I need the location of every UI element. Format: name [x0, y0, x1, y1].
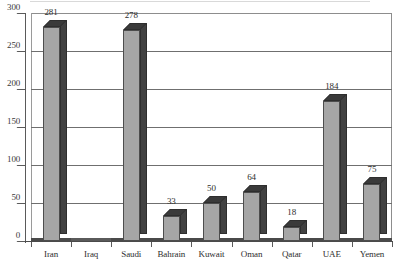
x-tick-iran — [31, 242, 32, 247]
x-axis-line — [25, 241, 393, 242]
value-label-oman: 64 — [232, 173, 272, 182]
bar-front-face — [243, 192, 260, 241]
x-tick-qatar — [272, 242, 273, 247]
x-tick-iraq — [71, 242, 72, 247]
bar-yemen[interactable] — [363, 177, 387, 241]
value-label-uae: 184 — [312, 82, 352, 91]
gridline-250 — [31, 51, 392, 52]
bar-front-face — [323, 101, 340, 241]
bar-side-face — [140, 23, 147, 234]
value-label-qatar: 18 — [272, 208, 312, 217]
value-label-yemen: 75 — [352, 165, 392, 174]
x-tick-saudi — [111, 242, 112, 247]
x-tick-bahrain — [151, 242, 152, 247]
y-axis-label-50: 50 — [0, 193, 20, 202]
bar-oman[interactable] — [243, 185, 267, 241]
bar-front-face — [283, 227, 300, 241]
bar-front-face — [163, 216, 180, 241]
y-axis-label-100: 100 — [0, 155, 20, 164]
x-tick-oman — [232, 242, 233, 247]
x-tick-end — [392, 242, 393, 247]
bar-side-face — [340, 94, 347, 234]
bar-uae[interactable] — [323, 94, 347, 241]
y-axis-label-300: 300 — [0, 3, 20, 12]
bar-chart: 050100150200250300 IranIraqSaudiBahrainK… — [0, 0, 402, 264]
x-tick-yemen — [352, 242, 353, 247]
y-axis-label-0: 0 — [0, 231, 20, 240]
x-tick-kuwait — [191, 242, 192, 247]
bar-qatar[interactable] — [283, 220, 307, 241]
bar-bahrain[interactable] — [163, 209, 187, 241]
plot-area — [31, 13, 392, 241]
y-axis-label-200: 200 — [0, 79, 20, 88]
plot-border-top — [31, 13, 392, 14]
bar-side-face — [260, 185, 267, 234]
value-label-iran: 281 — [31, 8, 71, 17]
bar-kuwait[interactable] — [203, 196, 227, 241]
x-tick-uae — [312, 242, 313, 247]
bar-side-face — [380, 177, 387, 234]
bar-iran[interactable] — [43, 20, 67, 241]
bar-saudi[interactable] — [123, 23, 147, 241]
bar-front-face — [363, 184, 380, 241]
value-label-saudi: 278 — [111, 11, 151, 20]
value-label-bahrain: 33 — [151, 197, 191, 206]
bar-front-face — [123, 30, 140, 241]
bar-front-face — [203, 203, 220, 241]
y-axis-label-150: 150 — [0, 117, 20, 126]
scan-artifact-line — [30, 1, 370, 2]
bar-front-face — [43, 27, 60, 241]
bar-side-face — [60, 20, 67, 234]
value-label-kuwait: 50 — [192, 184, 232, 193]
y-axis-label-250: 250 — [0, 41, 20, 50]
x-axis-label-yemen: Yemen — [342, 249, 402, 259]
